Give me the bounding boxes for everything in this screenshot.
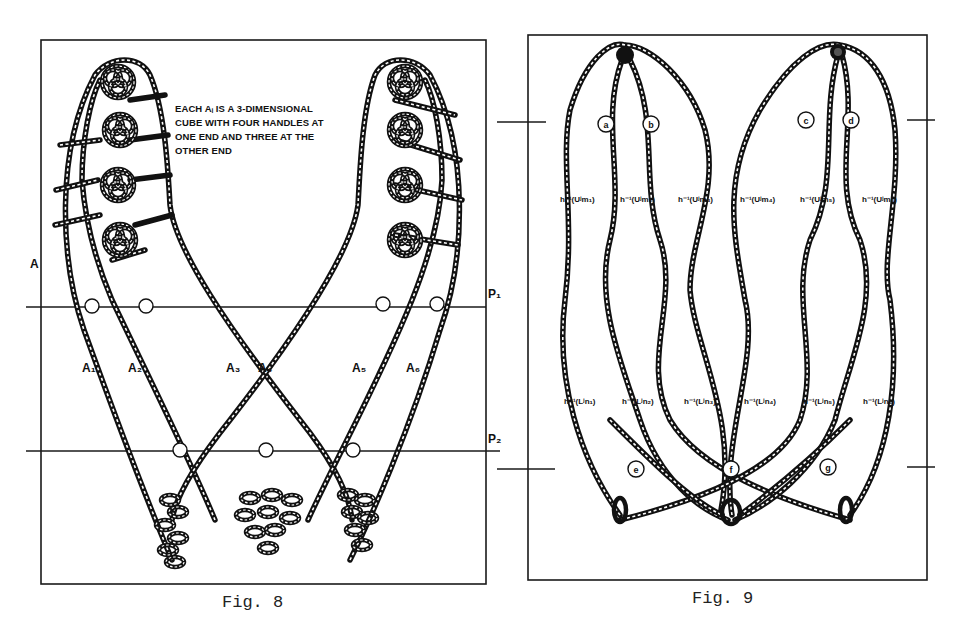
label-p2: P₂ (488, 432, 501, 446)
label-a5: A₅ (352, 361, 366, 375)
marker-c: c (798, 112, 814, 128)
marker-e: e (628, 461, 644, 477)
note-line-1: EACH Aᵢ IS A 3-DIMENSIONAL (175, 103, 313, 114)
svg-text:h⁻¹(Lʲn₄): h⁻¹(Lʲn₄) (744, 397, 776, 406)
fig8-note: EACH Aᵢ IS A 3-DIMENSIONAL CUBE WITH FOU… (175, 103, 324, 156)
svg-text:g: g (825, 463, 831, 473)
label-a2: A₂ (128, 361, 142, 375)
svg-text:h⁻¹(Lʲn₆): h⁻¹(Lʲn₆) (863, 397, 895, 406)
label-a4: A₄ (258, 361, 273, 375)
caption-fig9: Fig. 9 (692, 589, 753, 608)
svg-text:h⁻¹(Lʲn₁): h⁻¹(Lʲn₁) (564, 397, 596, 406)
label-a1: A₁ (82, 361, 96, 375)
figure-9: a b c d e f g h⁻¹(Uʲm₁) h⁻¹(Uʲm₂) h⁻¹(Uʲ… (497, 35, 935, 608)
svg-text:h⁻¹(Uʲm₃): h⁻¹(Uʲm₃) (678, 195, 713, 204)
svg-text:h⁻¹(Uʲm₄): h⁻¹(Uʲm₄) (740, 195, 775, 204)
note-line-3: ONE END AND THREE AT THE (175, 131, 314, 142)
marker-a: a (598, 116, 614, 132)
note-line-4: OTHER END (175, 145, 232, 156)
svg-text:h⁻¹(Lʲn₃): h⁻¹(Lʲn₃) (684, 397, 716, 406)
svg-text:d: d (848, 116, 854, 126)
marker-b: b (643, 116, 659, 132)
svg-text:h⁻¹(Lʲn₅): h⁻¹(Lʲn₅) (803, 397, 835, 406)
marker-d: d (843, 112, 859, 128)
label-a: A (30, 257, 39, 271)
label-a6: A₆ (406, 361, 420, 375)
svg-text:h⁻¹(Uʲm₂): h⁻¹(Uʲm₂) (620, 195, 655, 204)
label-a3: A₃ (226, 361, 240, 375)
label-p1: P₁ (488, 287, 501, 301)
caption-fig8: Fig. 8 (222, 593, 283, 612)
svg-text:b: b (648, 120, 654, 130)
svg-text:h⁻¹(Uʲm₆): h⁻¹(Uʲm₆) (862, 195, 897, 204)
bottom-handles-left (156, 495, 187, 567)
svg-text:h⁻¹(Lʲn₂): h⁻¹(Lʲn₂) (622, 397, 654, 406)
bottom-handles-middle (236, 490, 301, 553)
marker-f: f (723, 461, 739, 477)
figure-page: EACH Aᵢ IS A 3-DIMENSIONAL CUBE WITH FOU… (0, 0, 961, 633)
svg-text:c: c (803, 116, 808, 126)
note-line-2: CUBE WITH FOUR HANDLES AT (175, 117, 324, 128)
cube-labels: A₁ A₂ A₃ A₄ A₅ A₆ (82, 361, 420, 375)
marker-g: g (820, 459, 836, 475)
svg-text:e: e (633, 465, 638, 475)
svg-text:h⁻¹(Uʲm₁): h⁻¹(Uʲm₁) (560, 195, 595, 204)
lower-region-labels: h⁻¹(Lʲn₁) h⁻¹(Lʲn₂) h⁻¹(Lʲn₃) h⁻¹(Lʲn₄) … (564, 397, 895, 406)
svg-text:h⁻¹(Uʲm₅): h⁻¹(Uʲm₅) (800, 195, 835, 204)
figure-8: EACH Aᵢ IS A 3-DIMENSIONAL CUBE WITH FOU… (26, 40, 501, 612)
